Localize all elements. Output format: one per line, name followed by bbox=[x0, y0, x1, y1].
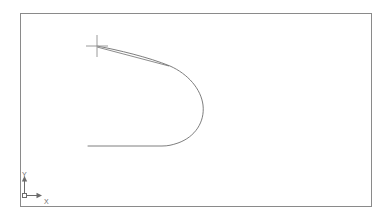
ucs-y-axis-label: Y bbox=[22, 171, 27, 178]
cad-drawing-window: Y X bbox=[0, 0, 388, 221]
spline-u-curve[interactable] bbox=[88, 46, 203, 146]
crosshair-cursor[interactable] bbox=[86, 35, 108, 57]
drawing-canvas[interactable] bbox=[0, 0, 388, 221]
ucs-origin-box bbox=[23, 194, 27, 198]
viewport-border bbox=[21, 14, 372, 207]
rubber-band-line bbox=[97, 47, 169, 66]
ucs-x-axis-arrowhead bbox=[37, 193, 43, 198]
ucs-x-axis-label: X bbox=[44, 198, 49, 205]
ucs-icon bbox=[22, 176, 42, 198]
